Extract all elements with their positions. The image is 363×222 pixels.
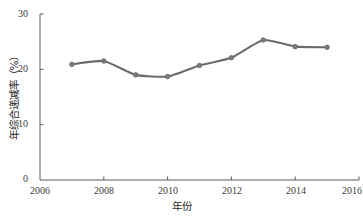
data-point-2010 — [165, 74, 170, 79]
series-markers — [70, 38, 330, 79]
series-line-annual-decline-rate — [72, 40, 327, 77]
data-point-2007 — [70, 62, 75, 67]
plot-area — [0, 0, 363, 222]
data-point-2014 — [293, 44, 298, 49]
y-axis-ticks — [40, 14, 44, 125]
data-point-2008 — [102, 59, 107, 64]
data-point-2012 — [229, 55, 234, 60]
x-axis-ticks — [104, 177, 359, 181]
data-point-2009 — [133, 73, 138, 78]
axis-lines — [40, 14, 359, 180]
data-point-2011 — [197, 63, 202, 68]
data-point-2015 — [325, 45, 330, 50]
line-chart-figure: 年综合递减率（%） 年份 30 20 10 0 2006 2008 2010 2… — [0, 0, 363, 222]
data-point-2013 — [261, 38, 266, 43]
